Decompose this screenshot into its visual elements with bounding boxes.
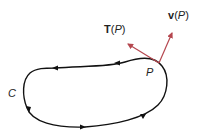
velocity-label: v(P) [168,9,189,21]
tangent-label: T(P) [104,23,125,35]
velocity-vector-arrow [159,33,172,63]
direction-arrow-right [140,114,146,119]
direction-arrow-bottom [80,125,86,130]
point-p-label: P [146,66,154,78]
curve-c-label: C [8,87,16,99]
direction-arrow-top-left [52,66,58,71]
curve-diagram: T(P) v(P) P C [0,0,209,135]
